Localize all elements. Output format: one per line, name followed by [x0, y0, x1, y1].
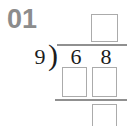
problem-number: 01	[7, 6, 37, 33]
dividend-tens-digit: 6	[70, 46, 82, 68]
subtraction-line	[55, 99, 127, 101]
remainder-answer-box[interactable]	[92, 104, 117, 126]
work-answer-box-tens[interactable]	[62, 67, 87, 97]
worksheet-problem: 01 ) 9 6 8	[0, 0, 129, 126]
division-vinculum-line	[57, 44, 127, 46]
dividend-ones-digit: 8	[100, 46, 112, 68]
work-answer-box-ones[interactable]	[92, 67, 117, 97]
quotient-answer-box[interactable]	[91, 14, 118, 42]
divisor-digit: 9	[34, 46, 46, 68]
division-bracket-icon: )	[48, 40, 58, 70]
